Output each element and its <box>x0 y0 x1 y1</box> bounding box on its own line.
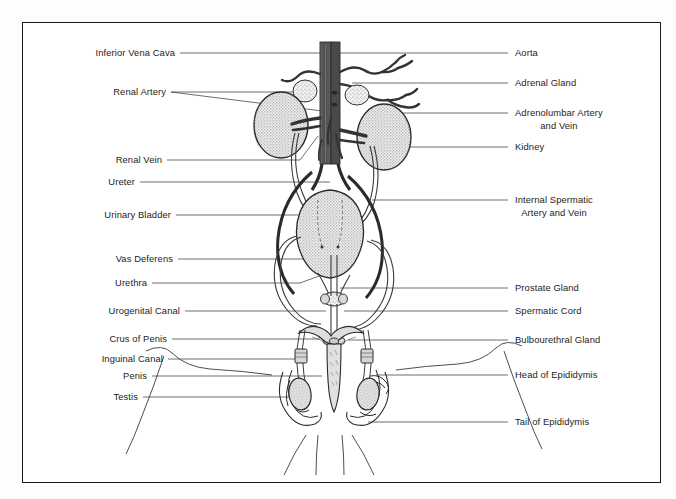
great-vessels-trunk <box>312 42 350 190</box>
label-spermatic-cord: Spermatic Cord <box>515 305 582 318</box>
label-urethra: Urethra <box>115 277 147 290</box>
label-head-of-epididymis: Head of Epididymis <box>515 369 598 382</box>
label-tail-of-epididymis: Tail of Epididymis <box>515 416 589 429</box>
prostate-gland <box>321 292 348 306</box>
label-prostate-gland: Prostate Gland <box>515 282 579 295</box>
testis-left <box>287 377 313 412</box>
label-kidney: Kidney <box>515 141 544 154</box>
label-urinary-bladder: Urinary Bladder <box>104 209 171 222</box>
label-internal-spermatic-line1: Internal Spermatic <box>515 194 593 205</box>
label-aorta: Aorta <box>515 47 538 60</box>
label-adrenolumbar-line2: and Vein <box>515 120 603 133</box>
adrenal-gland-right <box>345 85 369 105</box>
label-adrenolumbar-artery-and-vein: Adrenolumbar Artery and Vein <box>515 107 603 132</box>
label-penis: Penis <box>123 370 147 383</box>
kidney-left <box>253 92 308 158</box>
label-adrenal-gland: Adrenal Gland <box>515 77 576 90</box>
label-renal-vein: Renal Vein <box>116 154 162 167</box>
label-inguinal-canal: Inguinal Canal <box>102 353 163 366</box>
label-vas-deferens: Vas Deferens <box>116 253 173 266</box>
label-internal-spermatic-line2: Artery and Vein <box>515 207 593 220</box>
label-urogenital-canal: Urogenital Canal <box>109 305 180 318</box>
figure-page: Inferior Vena Cava Renal Artery Renal Ve… <box>0 0 676 499</box>
label-inferior-vena-cava: Inferior Vena Cava <box>96 47 175 60</box>
label-bulbourethral-gland: Bulbourethral Gland <box>515 334 600 347</box>
label-internal-spermatic-artery-and-vein: Internal Spermatic Artery and Vein <box>515 194 593 219</box>
label-ureter: Ureter <box>108 176 135 189</box>
inguinal-canal-left <box>295 349 307 363</box>
inguinal-canal-right <box>361 349 373 363</box>
label-adrenolumbar-line1: Adrenolumbar Artery <box>515 107 603 118</box>
label-testis: Testis <box>113 391 138 404</box>
label-crus-of-penis: Crus of Penis <box>109 333 167 346</box>
urinary-bladder <box>296 190 363 278</box>
label-renal-artery: Renal Artery <box>113 86 166 99</box>
